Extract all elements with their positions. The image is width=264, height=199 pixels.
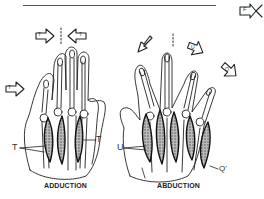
- arrow-label-q: Q: [225, 66, 229, 72]
- corner-arrow-label-f: F: [243, 6, 247, 12]
- caption-adduction: ADDUCTION: [44, 182, 87, 189]
- muscle-label-q-prime: Q': [219, 164, 227, 173]
- muscle-label-t-right: T: [96, 134, 102, 144]
- arrow-label-t-3: T: [8, 84, 11, 90]
- left-hand-adduction: [24, 47, 105, 179]
- muscle-label-u: U: [117, 142, 124, 152]
- caption-abduction: ABDUCTION: [157, 182, 200, 189]
- midline-markers: [61, 28, 173, 48]
- arrow-label-t-1: T: [38, 31, 41, 37]
- left-hand-interossei: [44, 116, 82, 164]
- right-hand-abduction: [120, 53, 215, 182]
- motion-arrows: [6, 4, 262, 96]
- arrow-label-u-1: U: [143, 42, 147, 48]
- arrow-label-u-2: U: [191, 44, 195, 50]
- arrow-label-t-2: T: [79, 31, 82, 37]
- muscle-label-t-left: T: [12, 142, 18, 152]
